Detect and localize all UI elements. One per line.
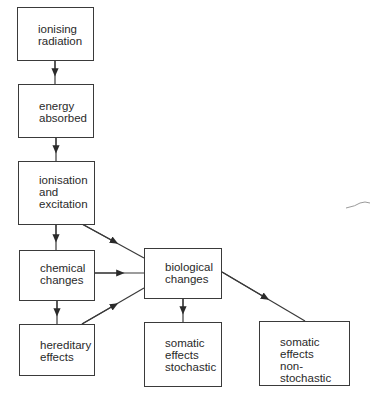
node-label: ionisation and excitation [39,174,88,210]
node-label: somatic effects non-stochastic [280,336,349,384]
node-label: energy absorbed [39,100,87,124]
node-label: somatic effects stochastic [165,337,216,373]
node-label: ionising radiation [38,23,82,47]
node-energy-absorbed: energy absorbed [18,84,94,138]
node-hereditary-effects: hereditary effects [19,324,95,376]
node-label: hereditary effects [40,339,91,363]
node-biological-changes: biological changes [144,248,222,299]
node-somatic-stochastic: somatic effects stochastic [144,322,222,387]
node-ionising-radiation: ionising radiation [17,7,94,61]
node-somatic-non-stochastic: somatic effects non-stochastic [259,321,350,386]
node-ionisation-excitation: ionisation and excitation [18,161,95,225]
node-label: chemical changes [40,262,85,286]
stray-mark [346,202,370,208]
node-label: biological changes [165,261,213,285]
node-chemical-changes: chemical changes [19,250,95,301]
